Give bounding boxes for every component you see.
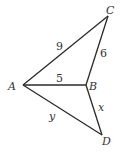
segment-label-ab: 5 [56, 72, 63, 85]
segment-label-bc: 6 [100, 47, 107, 60]
point-label-a: A [7, 80, 16, 93]
point-label-c: C [106, 4, 115, 17]
geometry-diagram: C A B D 9 6 5 x y [0, 0, 123, 153]
segment-label-ac: 9 [56, 40, 63, 53]
point-label-b: B [88, 80, 97, 93]
point-label-d: D [101, 135, 111, 148]
segment-label-ad: y [48, 110, 56, 123]
segment-label-bd: x [98, 101, 105, 114]
segment-ac [23, 16, 108, 85]
